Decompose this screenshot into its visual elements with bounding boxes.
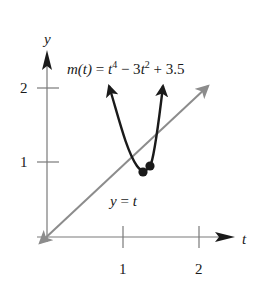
line-label: y = t xyxy=(110,194,137,209)
function-equals: = xyxy=(92,61,108,77)
line-label-equals: = xyxy=(117,193,133,209)
function-name: m xyxy=(67,61,78,77)
line-y-equals-t xyxy=(40,86,208,243)
function-minus: − 3 xyxy=(117,61,140,77)
intersection-point-1 xyxy=(138,167,147,176)
line-label-y: y xyxy=(110,193,117,209)
y-tick-label-1: 1 xyxy=(20,155,28,170)
x-tick-label-1: 1 xyxy=(119,262,127,277)
line-label-t: t xyxy=(133,193,137,209)
y-axis-label: y xyxy=(44,32,51,47)
function-arg: (t) xyxy=(78,61,92,77)
y-tick-label-2: 2 xyxy=(20,81,28,96)
x-axis-label: t xyxy=(242,232,246,247)
function-label: m(t) = t4 − 3t2 + 3.5 xyxy=(67,62,185,77)
intersection-point-2 xyxy=(145,161,154,170)
function-constant: + 3.5 xyxy=(150,61,185,77)
diagram-canvas xyxy=(0,0,260,291)
y-axis xyxy=(37,50,59,242)
curve-m-of-t xyxy=(109,86,163,171)
x-tick-label-2: 2 xyxy=(195,262,203,277)
x-axis xyxy=(37,226,235,248)
